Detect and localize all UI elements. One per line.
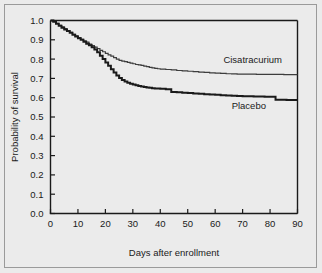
y-tick-label: 0.5 (30, 111, 43, 122)
x-tick-label: 80 (265, 218, 276, 229)
x-tick-label: 30 (128, 218, 139, 229)
x-axis-tick-labels: 0102030405060708090 (48, 218, 303, 229)
y-axis-tick-labels: 0.00.10.20.30.40.50.60.70.80.91.0 (30, 15, 43, 219)
y-tick-label: 0.6 (30, 92, 43, 103)
y-tick-label: 0.7 (30, 73, 43, 84)
y-tick-label: 0.0 (30, 208, 43, 219)
y-tick-label: 0.4 (30, 131, 43, 142)
x-tick-label: 20 (100, 218, 111, 229)
plot-axes (50, 21, 298, 214)
survival-curve-cisatracurium (51, 21, 298, 75)
x-tick-label: 60 (210, 218, 221, 229)
y-tick-label: 0.1 (30, 189, 43, 200)
x-tick-label: 90 (292, 218, 303, 229)
y-tick-label: 0.2 (30, 169, 43, 180)
curve-label-placebo: Placebo (232, 100, 266, 111)
x-tick-label: 40 (155, 218, 166, 229)
x-tick-label: 10 (73, 218, 84, 229)
x-tick-label: 70 (237, 218, 248, 229)
y-tick-label: 0.9 (30, 34, 43, 45)
y-axis-title: Probability of survival (9, 72, 20, 162)
x-axis-title: Days after enrollment (129, 247, 220, 258)
y-tick-label: 1.0 (30, 15, 43, 26)
survival-chart: 0102030405060708090 0.00.10.20.30.40.50.… (0, 0, 322, 273)
y-tick-label: 0.3 (30, 150, 43, 161)
x-tick-label: 0 (48, 218, 53, 229)
curve-annotations: CisatracuriumPlacebo (223, 54, 282, 111)
y-tick-label: 0.8 (30, 54, 43, 65)
figure-container: 0102030405060708090 0.00.10.20.30.40.50.… (0, 0, 322, 273)
curve-label-cisatracurium: Cisatracurium (223, 54, 282, 65)
x-tick-label: 50 (182, 218, 193, 229)
